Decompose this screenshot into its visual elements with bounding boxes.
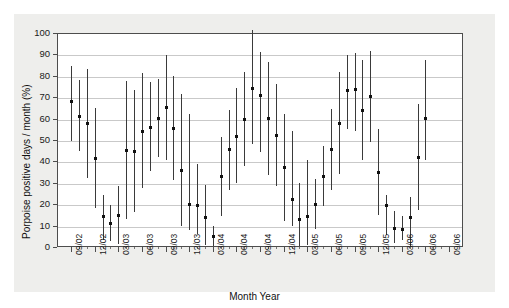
y-tick-label: 50 <box>22 135 50 145</box>
x-tick-minor <box>418 247 419 249</box>
x-tick-label: 09/05 <box>359 234 368 255</box>
y-tick-label: 60 <box>22 114 50 124</box>
x-tick-minor <box>347 247 348 249</box>
x-tick-major <box>213 247 214 252</box>
x-tick-label: 03/06 <box>406 234 415 255</box>
y-tick-mark <box>53 247 57 248</box>
plot-area <box>57 33 463 247</box>
y-tick-label: 70 <box>22 92 50 102</box>
x-tick-major <box>95 247 96 252</box>
x-tick-label: 09/04 <box>264 234 273 255</box>
x-tick-major <box>142 247 143 252</box>
gridline <box>58 141 462 142</box>
x-tick-label: 09/02 <box>75 234 84 255</box>
x-tick-major <box>189 247 190 252</box>
x-tick-minor <box>229 247 230 249</box>
gridline <box>58 98 462 99</box>
y-tick-label: 40 <box>22 156 50 166</box>
x-tick-label: 06/05 <box>335 234 344 255</box>
x-tick-label: 06/04 <box>240 234 249 255</box>
gridline <box>58 184 462 185</box>
x-tick-major <box>331 247 332 252</box>
x-tick-label: 03/03 <box>122 234 131 255</box>
y-tick-label: 10 <box>22 221 50 231</box>
x-tick-major <box>378 247 379 252</box>
gridline <box>58 120 462 121</box>
x-tick-minor <box>181 247 182 249</box>
y-tick-label: 100 <box>22 28 50 38</box>
x-tick-label: 03/04 <box>217 234 226 255</box>
x-tick-minor <box>370 247 371 249</box>
x-tick-label: 12/05 <box>382 234 391 255</box>
x-tick-label: 06/03 <box>146 234 155 255</box>
x-tick-minor <box>276 247 277 249</box>
x-tick-minor <box>394 247 395 249</box>
x-tick-minor <box>252 247 253 249</box>
x-tick-major <box>260 247 261 252</box>
x-tick-label: 09/03 <box>170 234 179 255</box>
x-axis-label: Month Year <box>0 292 509 302</box>
x-tick-label: 12/04 <box>288 234 297 255</box>
x-tick-major <box>402 247 403 252</box>
x-tick-minor <box>158 247 159 249</box>
chart-figure: Porpoise positive days / month (%) 01020… <box>0 0 509 308</box>
x-tick-minor <box>441 247 442 249</box>
x-tick-minor <box>205 247 206 249</box>
x-tick-major <box>71 247 72 252</box>
x-tick-major <box>425 247 426 252</box>
x-tick-major <box>449 247 450 252</box>
x-tick-minor <box>134 247 135 249</box>
y-tick-label: 80 <box>22 71 50 81</box>
x-tick-major <box>166 247 167 252</box>
y-tick-label: 20 <box>22 199 50 209</box>
y-tick-label: 90 <box>22 49 50 59</box>
x-tick-major <box>236 247 237 252</box>
x-tick-major <box>118 247 119 252</box>
x-tick-label: 03/05 <box>311 234 320 255</box>
x-tick-major <box>284 247 285 252</box>
x-tick-minor <box>87 247 88 249</box>
gridline <box>58 162 462 163</box>
y-tick-label: 30 <box>22 178 50 188</box>
y-tick-label: 0 <box>22 242 50 252</box>
x-tick-major <box>355 247 356 252</box>
x-tick-label: 12/02 <box>99 234 108 255</box>
x-tick-label: 12/03 <box>193 234 202 255</box>
x-tick-label: 09/06 <box>453 234 462 255</box>
x-tick-minor <box>323 247 324 249</box>
x-tick-minor <box>299 247 300 249</box>
gridline <box>58 205 462 206</box>
x-tick-major <box>307 247 308 252</box>
gridline <box>58 55 462 56</box>
x-tick-minor <box>110 247 111 249</box>
gridline <box>58 227 462 228</box>
gridline <box>58 77 462 78</box>
x-tick-label: 06/06 <box>429 234 438 255</box>
